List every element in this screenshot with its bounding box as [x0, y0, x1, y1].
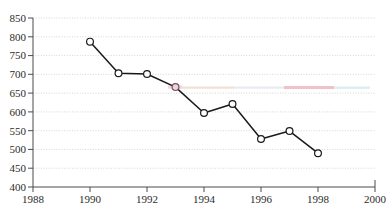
- x-tick-label: 1996: [250, 193, 273, 205]
- data-point-marker: [201, 110, 208, 117]
- y-tick-label: 650: [10, 87, 27, 99]
- y-tick-label: 450: [10, 162, 27, 174]
- y-axis-tick-labels: 850 800 750 700 650 600 550 500 450 400: [10, 12, 27, 193]
- data-point-marker: [286, 128, 293, 135]
- scan-artifact-band: [168, 86, 370, 90]
- data-point-marker: [87, 38, 94, 45]
- data-point-marker: [172, 84, 179, 91]
- y-tick-label: 800: [10, 31, 27, 43]
- x-tick-label: 1994: [193, 193, 216, 205]
- y-axis-ticks: [28, 18, 33, 187]
- y-tick-label: 400: [10, 181, 27, 193]
- x-axis-tick-labels: 1988 1990 1992 1994 1996 1998 2000: [22, 193, 387, 205]
- data-point-marker: [229, 101, 236, 108]
- x-tick-label: 1992: [136, 193, 158, 205]
- y-tick-label: 600: [10, 106, 27, 118]
- y-tick-label: 550: [10, 125, 27, 137]
- y-tick-label: 700: [10, 68, 27, 80]
- x-tick-label: 1998: [307, 193, 330, 205]
- axes: [33, 18, 375, 187]
- y-tick-label: 850: [10, 12, 27, 24]
- chart-canvas: 850 800 750 700 650 600 550 500 450 400 …: [0, 0, 390, 213]
- data-point-marker: [315, 150, 322, 157]
- data-point-marker: [258, 136, 265, 143]
- y-tick-label: 750: [10, 49, 27, 61]
- x-tick-label: 2000: [364, 193, 387, 205]
- data-series-line: [90, 42, 318, 154]
- x-tick-label: 1990: [79, 193, 102, 205]
- data-point-marker: [115, 70, 122, 77]
- gridlines: [33, 18, 375, 168]
- line-chart-figure: 850 800 750 700 650 600 550 500 450 400 …: [0, 0, 390, 213]
- x-axis-ticks: [33, 187, 375, 192]
- x-tick-label: 1988: [22, 193, 45, 205]
- data-series-markers: [87, 38, 322, 156]
- data-point-marker: [144, 71, 151, 78]
- y-tick-label: 500: [10, 143, 27, 155]
